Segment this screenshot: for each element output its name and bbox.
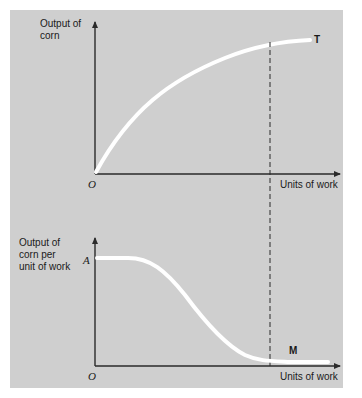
total-product-curve-T [96,40,310,172]
bottom-y-label-line1: Output of [19,237,70,249]
y-intercept-label-A: A [83,254,90,266]
top-y-label-line1: Output of [40,18,81,30]
top-y-axis-label: Output of corn [40,18,81,42]
curve-label-T: T [314,34,320,46]
bottom-y-label-line2: corn per [19,249,70,261]
top-y-label-line2: corn [40,30,81,42]
bottom-y-label-line3: unit of work [19,261,70,273]
top-origin-label: O [88,178,96,190]
top-x-axis-label: Units of work [280,179,338,191]
top-graph [95,22,340,174]
bottom-origin-label: O [88,370,96,382]
diagram-canvas [0,0,362,398]
bottom-x-axis-label: Units of work [280,371,338,383]
bottom-y-axis-label: Output of corn per unit of work [19,237,70,273]
bottom-graph [95,238,340,366]
curve-label-M: M [289,345,297,357]
